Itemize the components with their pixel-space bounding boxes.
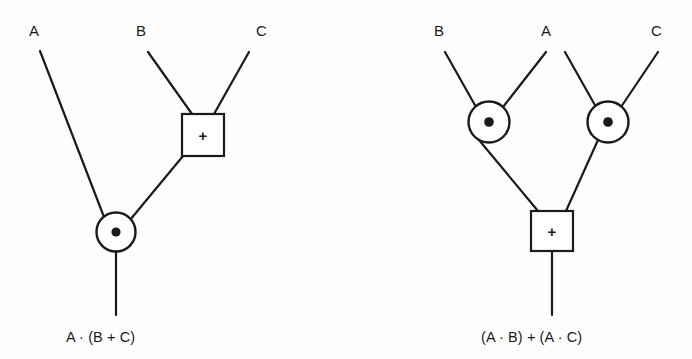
left-input-label-c: C xyxy=(256,23,267,38)
left-input-label-a: A xyxy=(29,23,39,38)
wire-left-c-input xyxy=(214,52,249,114)
right-input-label-b: B xyxy=(434,23,444,38)
left-and-gate-symbol xyxy=(111,227,120,236)
circuit-wires: + + xyxy=(0,0,692,359)
left-or-gate[interactable]: + xyxy=(182,114,224,156)
left-or-gate-symbol: + xyxy=(199,127,208,144)
left-output-label: A · (B + C) xyxy=(66,330,135,345)
right-input-label-a: A xyxy=(541,23,551,38)
wire-right-a-to-left-and xyxy=(503,52,546,107)
left-input-label-b: B xyxy=(136,23,146,38)
right-or-gate[interactable]: + xyxy=(531,211,573,251)
right-output-label: (A · B) + (A · C) xyxy=(481,330,582,345)
right-and-gate-left-symbol xyxy=(484,117,494,127)
right-and-gate-right-symbol xyxy=(603,117,613,127)
diagram-canvas: + + A B C A · (B + C) B A C (A · B) + (A xyxy=(0,0,692,359)
right-and-gate-left[interactable] xyxy=(469,102,510,143)
left-and-gate[interactable] xyxy=(97,213,136,252)
right-and-gate-right[interactable] xyxy=(588,102,629,143)
wire-left-a-input xyxy=(40,51,104,217)
right-input-label-c: C xyxy=(651,23,662,38)
wire-right-b-input xyxy=(445,52,476,107)
wire-left-b-input xyxy=(148,52,192,114)
wire-right-a-to-right-and xyxy=(565,52,596,107)
wire-right-left-and-to-or xyxy=(479,140,538,211)
wire-left-or-to-and xyxy=(130,156,183,220)
right-or-gate-symbol: + xyxy=(548,223,557,240)
wire-right-right-and-to-or xyxy=(566,140,598,211)
wire-right-c-input xyxy=(621,52,658,107)
